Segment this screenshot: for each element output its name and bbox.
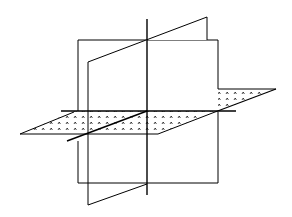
slanted-vertical-plane-lower <box>88 134 147 205</box>
planes-figure <box>0 0 292 217</box>
